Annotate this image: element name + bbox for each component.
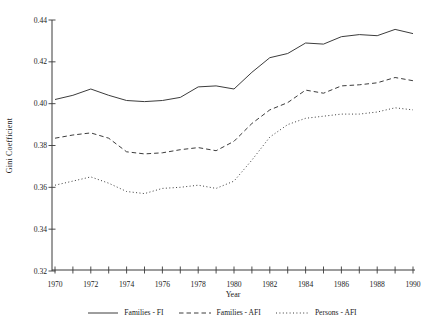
x-tick-label: 1972 [83, 280, 98, 289]
y-tick-label: 0.40 [34, 99, 47, 108]
series-line-families-fi [55, 29, 413, 101]
y-tick-label: 0.36 [34, 183, 47, 192]
x-tick-label: 1990 [405, 280, 420, 289]
x-tick-label: 1970 [47, 280, 62, 289]
series-line-persons-afi [55, 108, 413, 194]
plot-area: 0.320.340.360.380.400.420.44197019721974… [0, 0, 445, 334]
x-tick-label: 1982 [262, 280, 277, 289]
legend-label-families-afi: Families - AFI [217, 308, 261, 317]
dashed-line-sample-icon [179, 310, 211, 316]
x-tick-label: 1976 [155, 280, 170, 289]
y-tick-label: 0.42 [34, 57, 47, 66]
legend-label-persons-afi: Persons - AFI [315, 308, 357, 317]
legend-item-families-fi: Families - FI [88, 308, 163, 317]
y-axis-label: Gini Coefficient [5, 101, 16, 191]
x-tick-label: 1986 [334, 280, 349, 289]
y-tick-label: 0.38 [34, 141, 47, 150]
x-tick-label: 1988 [370, 280, 385, 289]
legend-item-persons-afi: Persons - AFI [276, 308, 357, 317]
solid-line-sample-icon [88, 310, 118, 316]
dotted-line-sample-icon [276, 310, 309, 316]
y-tick-label: 0.34 [34, 225, 47, 234]
legend-item-families-afi: Families - AFI [179, 308, 261, 317]
y-tick-label: 0.32 [34, 267, 47, 276]
legend-label-families-fi: Families - FI [124, 308, 163, 317]
x-axis-label: Year [52, 290, 414, 299]
x-tick-label: 1978 [191, 280, 206, 289]
x-tick-label: 1984 [298, 280, 313, 289]
x-tick-label: 1980 [226, 280, 241, 289]
chart-legend: Families - FI Families - AFI Persons - A… [0, 308, 445, 317]
x-tick-label: 1974 [119, 280, 134, 289]
gini-coefficient-line-chart: 0.320.340.360.380.400.420.44197019721974… [0, 0, 445, 334]
y-tick-label: 0.44 [34, 16, 47, 25]
